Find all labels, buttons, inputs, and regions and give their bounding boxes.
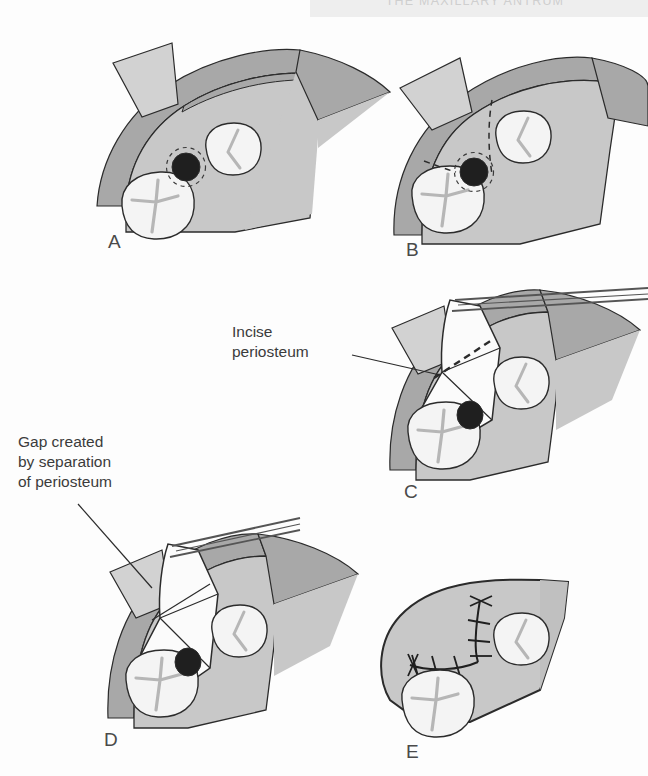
figure-page: THE MAXILLARY ANTRUM A bbox=[0, 0, 648, 776]
panel-e-illustration bbox=[0, 0, 648, 776]
panel-e-group bbox=[381, 580, 568, 737]
panel-e-premolar bbox=[494, 613, 549, 665]
panel-letter-e: E bbox=[406, 741, 419, 763]
